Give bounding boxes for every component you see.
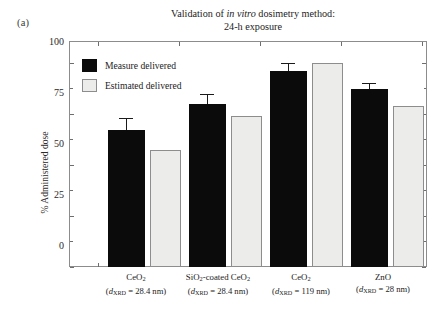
chart-title-line2: 24-h exposure [224, 21, 282, 32]
x-tick-label-group-4: ZnO (dXRD = 28 nm) [324, 271, 442, 297]
title-prefix: Validation of [171, 8, 226, 19]
legend-item-measured: Measure delivered [82, 55, 252, 75]
title-italic: in vitro [226, 8, 255, 19]
y-tick-label-100: 100 [24, 36, 64, 47]
errorbar-line-group-1 [126, 118, 127, 130]
bar-estimated-group-3 [312, 63, 343, 267]
bar-estimated-group-4 [393, 106, 424, 267]
x-tick-label-group: CeO2 (dXRD = 28.4 nm) SiO2-coated CeO2 (… [70, 271, 426, 315]
y-tick-minor-87 [70, 88, 73, 89]
bar-measured-group-2 [189, 104, 226, 267]
y-tick-minor-62 [70, 139, 73, 140]
top-tick-5 [422, 42, 423, 46]
figure-panel: (a) Validation of in vitro dosimetry met… [0, 0, 448, 317]
bar-measured-group-3 [270, 71, 307, 267]
errorbar-cap-group-3 [281, 63, 295, 64]
y-right-tick-minor-87 [424, 88, 427, 89]
legend: Measure delivered Estimated delivered [82, 55, 252, 95]
errorbar-line-group-2 [207, 94, 208, 104]
y-tick-major-75 [70, 114, 74, 115]
y-right-tick-major-100 [422, 63, 426, 64]
legend-item-estimated: Estimated delivered [82, 75, 252, 95]
x-label-4-line2: (dXRD = 28 nm) [324, 283, 442, 297]
panel-label: (a) [17, 17, 29, 28]
y-tick-label-group: 0 25 50 75 100 % Administered dose [19, 42, 64, 267]
legend-swatch-measured-icon [82, 59, 97, 72]
bar-estimated-group-2 [231, 116, 262, 267]
y-tick-major-25 [70, 216, 74, 217]
x-label-4-line1: ZnO [324, 271, 442, 283]
top-tick-3 [260, 42, 261, 46]
title-suffix: dosimetry method: [256, 8, 335, 19]
y-tick-major-0 [70, 267, 74, 268]
x-group-separator-1 [98, 263, 99, 267]
bar-measured-group-1 [108, 130, 145, 267]
top-tick-4 [341, 42, 342, 46]
top-tick-1 [98, 42, 99, 46]
errorbar-cap-group-4 [362, 83, 376, 84]
legend-swatch-estimated-icon [82, 79, 97, 92]
y-tick-minor-37 [70, 190, 73, 191]
top-tick-2 [179, 42, 180, 46]
chart-title: Validation of in vitro dosimetry method:… [78, 7, 428, 33]
legend-label-measured: Measure delivered [105, 60, 176, 71]
legend-label-estimated: Estimated delivered [105, 80, 181, 91]
chart-title-line1: Validation of in vitro dosimetry method: [171, 8, 335, 19]
errorbar-cap-group-1 [119, 118, 133, 119]
y-right-tick-major-0 [422, 267, 426, 268]
bar-estimated-group-1 [150, 150, 181, 267]
y-tick-minor-12 [70, 241, 73, 242]
y-tick-major-50 [70, 165, 74, 166]
errorbar-line-group-3 [288, 63, 289, 71]
y-axis-title: % Administered dose [39, 88, 50, 258]
y-tick-major-100 [70, 63, 74, 64]
bar-measured-group-4 [351, 89, 388, 267]
